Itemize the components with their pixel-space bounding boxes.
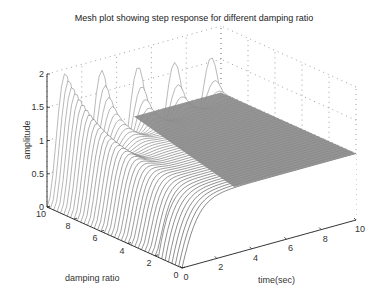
svg-text:0: 0 <box>39 202 44 212</box>
svg-text:10: 10 <box>355 224 365 234</box>
x-axis-label: time(sec) <box>258 275 295 285</box>
svg-text:6: 6 <box>92 233 97 243</box>
mesh-plot: 0246810024681000.511.52 amplitude dampin… <box>0 0 388 303</box>
svg-text:2: 2 <box>218 262 223 272</box>
svg-text:4: 4 <box>119 246 124 256</box>
svg-text:0: 0 <box>173 270 178 280</box>
svg-text:4: 4 <box>253 253 258 263</box>
svg-text:1: 1 <box>39 136 44 146</box>
svg-text:6: 6 <box>288 243 293 253</box>
y-axis-label: damping ratio <box>65 273 120 283</box>
svg-text:0.5: 0.5 <box>31 169 44 179</box>
svg-text:1.5: 1.5 <box>31 102 44 112</box>
svg-text:8: 8 <box>65 221 70 231</box>
svg-text:2: 2 <box>146 258 151 268</box>
svg-text:2: 2 <box>39 69 44 79</box>
z-axis-label: amplitude <box>22 120 32 159</box>
svg-text:8: 8 <box>323 234 328 244</box>
svg-text:0: 0 <box>183 272 188 282</box>
